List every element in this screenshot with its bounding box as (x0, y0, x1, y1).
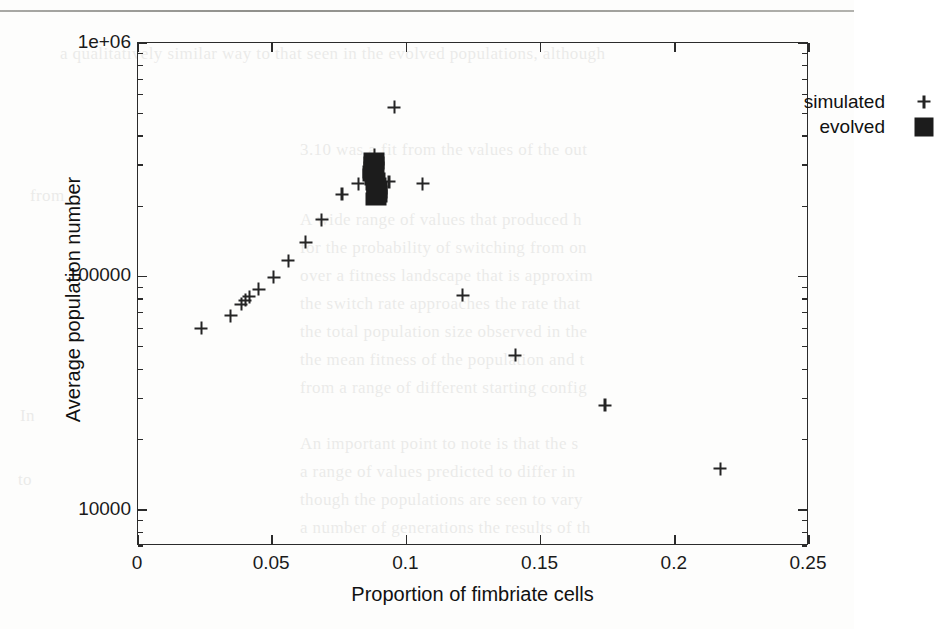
y-axis-minor-tick (802, 398, 807, 399)
plot-frame: simulatedevolved (137, 42, 808, 545)
x-axis-title: Proportion of fimbriate cells (137, 583, 808, 606)
y-axis-tick (798, 509, 807, 511)
y-axis-minor-tick (138, 312, 143, 313)
y-axis-minor-tick (138, 520, 143, 521)
y-axis-title: Average population number (62, 110, 85, 490)
plus-glyph (918, 95, 931, 108)
plus-marker (911, 91, 937, 113)
x-axis-tick (540, 43, 542, 52)
y-axis-minor-tick (138, 439, 143, 440)
y-axis-minor-tick (802, 312, 807, 313)
data-point-simulated (335, 188, 348, 201)
legend-label: evolved (820, 116, 886, 138)
data-point-simulated (224, 309, 237, 322)
y-axis-minor-tick (138, 298, 143, 299)
y-axis-minor-tick (138, 65, 143, 66)
filled-square-marker (911, 116, 937, 138)
y-axis-minor-tick (138, 206, 143, 207)
data-point-simulated (416, 177, 429, 190)
x-axis-tick (271, 43, 273, 52)
y-axis-minor-tick (138, 164, 143, 165)
x-tick-label: 0.05 (253, 552, 290, 574)
x-tick-label: 0.1 (392, 552, 418, 574)
y-axis-tick (798, 42, 807, 44)
legend-entry: evolved (741, 114, 937, 139)
y-axis-minor-tick (802, 439, 807, 440)
y-axis-minor-tick (802, 113, 807, 114)
data-point-simulated (282, 254, 295, 267)
data-point-simulated (509, 349, 522, 362)
data-point-simulated (599, 399, 612, 412)
y-axis-minor-tick (802, 65, 807, 66)
data-point-simulated (315, 213, 328, 226)
data-point-evolved (365, 193, 386, 206)
y-axis-minor-tick (802, 369, 807, 370)
y-axis-minor-tick (802, 287, 807, 288)
data-point-simulated (714, 462, 727, 475)
legend-label: simulated (804, 91, 885, 113)
y-axis-minor-tick (802, 206, 807, 207)
square-glyph (915, 117, 934, 136)
y-axis-tick (138, 509, 147, 511)
x-axis-tick (808, 43, 810, 52)
y-tick-label: 1e+06 (78, 31, 131, 53)
data-point-simulated (195, 322, 208, 335)
y-axis-minor-tick (802, 79, 807, 80)
y-axis-minor-tick (802, 298, 807, 299)
x-axis-tick (271, 535, 273, 544)
x-axis-tick (137, 535, 139, 544)
data-point-simulated (299, 236, 312, 249)
y-axis-minor-tick (138, 346, 143, 347)
data-point-simulated (388, 101, 401, 114)
y-axis-tick (138, 276, 147, 278)
y-axis-minor-tick (802, 532, 807, 533)
y-axis-minor-tick (802, 346, 807, 347)
x-axis-tick (540, 535, 542, 544)
y-axis-minor-tick (138, 328, 143, 329)
x-axis-tick (406, 43, 408, 52)
y-axis-minor-tick (138, 287, 143, 288)
y-axis-minor-tick (802, 328, 807, 329)
y-axis-minor-tick (138, 79, 143, 80)
y-axis-minor-tick (802, 164, 807, 165)
data-point-simulated (456, 289, 469, 302)
y-axis-minor-tick (138, 532, 143, 533)
y-axis-minor-tick (802, 520, 807, 521)
x-tick-label: 0.25 (790, 552, 827, 574)
y-axis-tick (798, 276, 807, 278)
y-axis-minor-tick (138, 369, 143, 370)
y-axis-minor-tick (138, 135, 143, 136)
y-axis-minor-tick (138, 113, 143, 114)
x-tick-label: 0.15 (521, 552, 558, 574)
plot-area (138, 43, 807, 544)
x-axis-tick (808, 535, 810, 544)
y-axis-minor-tick (802, 545, 807, 546)
x-axis-tick (674, 43, 676, 52)
y-axis-tick (138, 42, 147, 44)
data-point-simulated (252, 283, 265, 296)
y-tick-label: 10000 (78, 498, 131, 520)
y-axis-minor-tick (138, 53, 143, 54)
y-axis-minor-tick (138, 94, 143, 95)
y-axis-minor-tick (138, 545, 143, 546)
y-axis-minor-tick (138, 398, 143, 399)
x-axis-tick (137, 43, 139, 52)
chart-legend: simulatedevolved (741, 89, 937, 139)
legend-entry: simulated (741, 89, 937, 114)
y-axis-minor-tick (802, 94, 807, 95)
data-point-simulated (267, 271, 280, 284)
x-tick-label: 0.2 (661, 552, 687, 574)
x-axis-tick (406, 535, 408, 544)
y-axis-minor-tick (802, 135, 807, 136)
x-tick-label: 0 (132, 552, 143, 574)
y-axis-minor-tick (802, 53, 807, 54)
x-axis-tick (674, 535, 676, 544)
